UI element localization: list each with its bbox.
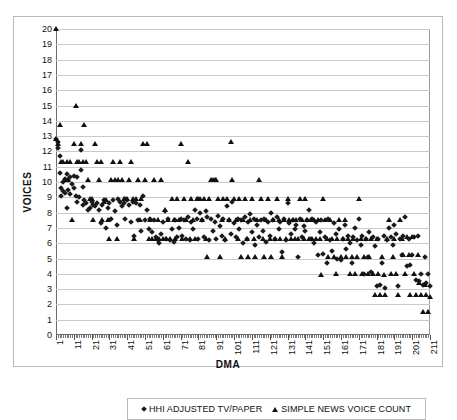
data-point-triangle	[92, 141, 98, 146]
gridline	[56, 60, 430, 61]
data-point-triangle	[402, 271, 408, 276]
data-point-triangle	[415, 252, 421, 257]
data-point-triangle	[199, 217, 205, 222]
data-point-triangle	[333, 271, 339, 276]
y-tick-label: 16	[42, 86, 52, 95]
data-point-triangle	[427, 294, 433, 299]
x-tick-label: 21	[91, 340, 100, 350]
data-point-triangle	[285, 196, 291, 201]
y-tick-label: 7	[47, 223, 52, 232]
data-point-triangle	[138, 196, 144, 201]
x-tick-label: 11	[73, 340, 82, 349]
y-tick-label: 14	[42, 116, 52, 125]
x-tick-label: 81	[198, 340, 207, 350]
data-point-triangle	[386, 217, 392, 222]
y-tick-label: 6	[47, 239, 52, 248]
data-point-triangle	[98, 159, 104, 164]
data-point-triangle	[126, 177, 132, 182]
chart-frame: VOICES 01234567891011121314151617181920 …	[13, 16, 443, 367]
data-point-triangle	[158, 177, 164, 182]
x-tick-label: 41	[127, 340, 136, 350]
data-point-triangle	[147, 217, 153, 222]
gridline	[56, 151, 430, 152]
data-point-triangle	[251, 236, 257, 241]
y-tick-label: 11	[43, 162, 52, 171]
y-tick-label: 20	[42, 25, 52, 34]
gridline	[56, 304, 430, 305]
y-axis-title: VOICES	[22, 172, 33, 213]
data-point-triangle	[85, 177, 91, 182]
data-point-triangle	[256, 177, 262, 182]
data-point-triangle	[374, 236, 380, 241]
data-point-triangle	[384, 236, 390, 241]
data-point-triangle	[226, 217, 232, 222]
data-point-triangle	[393, 271, 399, 276]
y-tick-label: 19	[42, 40, 52, 49]
gridline	[56, 44, 430, 45]
x-tick-label: 61	[162, 340, 171, 350]
data-point-triangle	[178, 141, 184, 146]
x-tick-label: 201	[412, 340, 421, 355]
data-point-triangle	[181, 196, 187, 201]
gridline	[56, 29, 430, 30]
data-point-triangle	[235, 236, 241, 241]
data-point-triangle	[395, 292, 401, 297]
x-tick-label: 111	[251, 340, 260, 354]
data-point-triangle	[425, 309, 431, 314]
data-point-triangle	[352, 271, 358, 276]
data-point-triangle	[90, 217, 96, 222]
data-point-triangle	[151, 177, 157, 182]
x-tick-label: 131	[287, 340, 296, 355]
data-point-triangle	[89, 196, 95, 201]
data-point-triangle	[222, 236, 228, 241]
data-point-triangle	[242, 196, 248, 201]
data-point-triangle	[240, 217, 246, 222]
x-tick-label: 191	[394, 340, 403, 355]
data-point-triangle	[142, 177, 148, 182]
x-tick-label: 101	[234, 340, 243, 355]
data-point-triangle	[128, 159, 134, 164]
data-point-triangle	[137, 217, 143, 222]
y-tick-label: 2	[47, 300, 52, 309]
data-point-triangle	[131, 236, 137, 241]
x-tick-label: 121	[269, 340, 278, 355]
y-tick-label: 17	[42, 70, 52, 79]
data-point-triangle	[65, 177, 71, 182]
data-point-triangle	[144, 141, 150, 146]
data-point-triangle	[261, 254, 267, 259]
x-tick-label: 161	[340, 340, 349, 355]
data-point-triangle	[391, 236, 397, 241]
data-point-triangle	[317, 236, 323, 241]
data-point-triangle	[331, 254, 337, 259]
data-point-triangle	[53, 26, 59, 31]
data-point-triangle	[81, 122, 87, 127]
gridline	[56, 213, 430, 214]
y-tick-label: 13	[42, 132, 52, 141]
data-point-triangle	[268, 254, 274, 259]
data-point-triangle	[155, 217, 161, 222]
x-tick-label: 211	[430, 340, 439, 354]
data-point-triangle	[119, 177, 125, 182]
data-point-triangle	[183, 217, 189, 222]
plot-area: 01234567891011121314151617181920 1112131…	[56, 29, 430, 335]
data-point-triangle	[224, 196, 230, 201]
y-tick-label: 5	[47, 254, 52, 263]
data-point-triangle	[228, 139, 234, 144]
data-point-triangle	[96, 177, 102, 182]
data-point-triangle	[252, 254, 258, 259]
data-point-triangle	[117, 159, 123, 164]
data-point-triangle	[78, 141, 84, 146]
data-point-triangle	[379, 254, 385, 259]
data-point-triangle	[366, 254, 372, 259]
data-point-triangle	[247, 217, 253, 222]
x-axis-title: DMA	[14, 359, 442, 370]
data-point-triangle	[229, 177, 235, 182]
y-tick-label: 3	[47, 285, 52, 294]
data-point-triangle	[318, 272, 324, 277]
data-point-triangle	[265, 196, 271, 201]
gridline	[56, 106, 430, 107]
data-point-triangle	[190, 217, 196, 222]
data-point-triangle	[55, 141, 61, 146]
data-point-triangle	[397, 217, 403, 222]
data-point-triangle	[106, 236, 112, 241]
